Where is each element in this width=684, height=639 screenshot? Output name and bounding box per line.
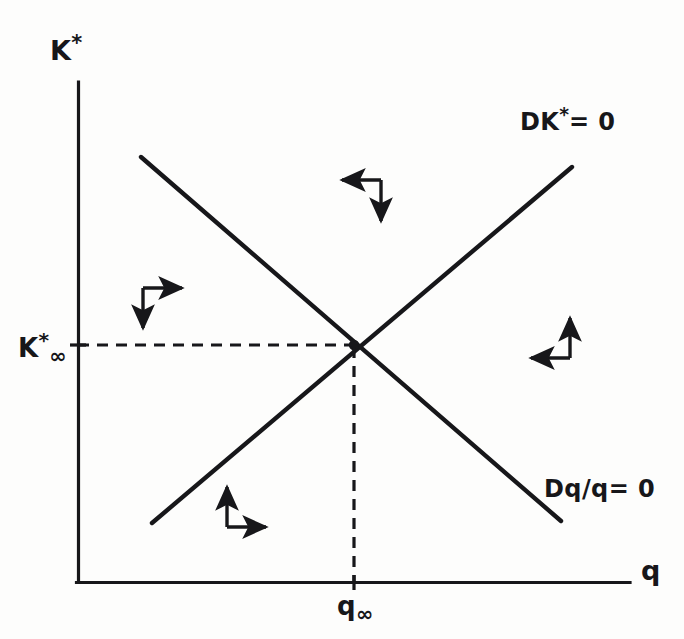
dk-star-zero-label: DK*= 0: [520, 106, 615, 134]
equilibrium-q-subscript: ∞: [356, 602, 373, 626]
motion-arrow-north-region: [342, 180, 381, 221]
motion-arrow-west-region: [143, 288, 182, 328]
diagram-canvas: [0, 0, 684, 639]
x-axis-title: q: [641, 557, 661, 584]
dashed-guides: [70, 345, 354, 590]
y-axis-title-base: K: [50, 35, 71, 66]
dq-over-q-zero-label-tail: = 0: [609, 475, 655, 503]
dk-star-zero-label-base: DK: [520, 108, 559, 136]
equilibrium-q-base: q: [337, 591, 356, 621]
dq-over-q-zero-label: Dq/q= 0: [544, 477, 664, 501]
dq-over-q-zero-label-base: Dq/q: [544, 475, 609, 503]
dk-star-zero-label-tail: = 0: [569, 108, 615, 136]
curve-dq-over-q-zero: [141, 157, 561, 521]
equilibrium-capital-subscript: ∞: [49, 344, 66, 368]
motion-arrow-east-region: [531, 318, 570, 358]
equilibrium-capital-superscript: *: [39, 328, 50, 352]
y-axis-title: K*: [50, 32, 82, 64]
dk-star-zero-label-superscript: *: [559, 104, 569, 125]
equilibrium-q-label: q∞: [337, 593, 373, 625]
equilibrium-capital-label: K*∞: [18, 330, 67, 367]
y-axis-title-superscript: *: [71, 30, 82, 55]
dq-over-q-zero-line: [141, 157, 561, 521]
equilibrium-capital-base: K: [18, 333, 39, 363]
phase-diagram-figure: K* q K*∞ q∞ DK*= 0 Dq/q= 0: [0, 0, 684, 639]
motion-arrow-south-region: [227, 487, 266, 527]
